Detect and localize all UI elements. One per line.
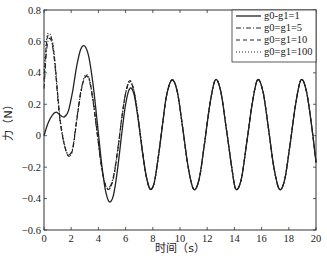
y-tick-label: 0.8 xyxy=(28,5,41,16)
legend-label-0: g0-g1=1 xyxy=(264,10,300,21)
x-tick-label: 14 xyxy=(229,233,240,244)
y-axis-label: 力（N） xyxy=(2,99,15,140)
line-chart: 02468101214161820 −0.6−0.4−0.200.20.40.6… xyxy=(0,0,327,263)
x-tick-label: 0 xyxy=(41,233,46,244)
y-tick-label: 0 xyxy=(36,130,41,141)
y-tick-label: 0.6 xyxy=(28,36,41,47)
x-tick-label: 2 xyxy=(69,233,74,244)
legend-label-2: g0=g1=10 xyxy=(264,34,307,45)
x-tick-label: 6 xyxy=(123,233,128,244)
y-tick-label: 0.4 xyxy=(28,67,42,78)
x-axis-label: 时间（s） xyxy=(155,242,205,255)
legend: g0-g1=1g0=g1=5g0=g1=10g0=g1=100 xyxy=(232,10,316,62)
x-tick-label: 20 xyxy=(311,233,322,244)
y-tick-label: −0.4 xyxy=(22,193,42,204)
y-tick-label: 0.2 xyxy=(28,99,41,110)
legend-label-1: g0=g1=5 xyxy=(264,22,302,33)
x-tick-label: 4 xyxy=(96,233,102,244)
legend-label-3: g0=g1=100 xyxy=(264,46,313,57)
x-tick-label: 18 xyxy=(284,233,295,244)
y-tick-label: −0.2 xyxy=(22,162,41,173)
x-tick-label: 16 xyxy=(256,233,267,244)
y-tick-label: −0.6 xyxy=(22,225,41,236)
